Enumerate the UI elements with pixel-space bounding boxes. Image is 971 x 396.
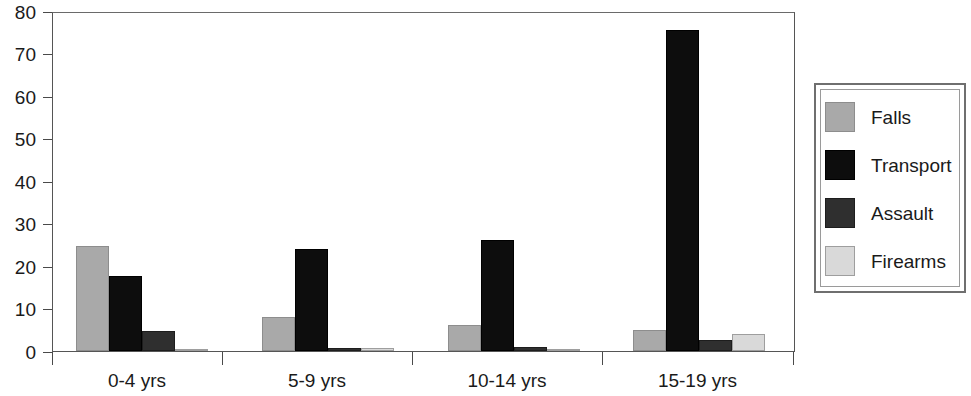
bars-layer (53, 13, 794, 351)
legend-swatch-firearms (825, 246, 855, 276)
y-tick-label-70: 70 (15, 45, 36, 64)
y-tick-label-80: 80 (15, 3, 36, 22)
legend-swatch-falls (825, 102, 855, 132)
y-tick-label-60: 60 (15, 88, 36, 107)
y-tick-label-0: 0 (25, 343, 36, 362)
y-tick-mark-30 (43, 224, 52, 225)
y-tick-label-50: 50 (15, 130, 36, 149)
bar-falls-15-19-yrs (633, 330, 666, 351)
y-tick-mark-10 (43, 309, 52, 310)
x-category-label-3: 15-19 yrs (602, 370, 793, 392)
x-axis-tick-4 (793, 352, 794, 365)
x-category-label-1: 5-9 yrs (222, 370, 412, 392)
y-tick-label-30: 30 (15, 215, 36, 234)
y-tick-label-40: 40 (15, 173, 36, 192)
y-tick-mark-80 (43, 12, 52, 13)
y-tick-mark-50 (43, 139, 52, 140)
y-tick-label-20: 20 (15, 258, 36, 277)
x-axis-tick-2 (412, 352, 413, 365)
y-tick-mark-40 (43, 182, 52, 183)
y-axis: 80 70 60 50 40 30 20 10 0 (0, 0, 52, 396)
bar-chart: 80 70 60 50 40 30 20 10 0 0-4 yrs 5-9 yr… (0, 0, 971, 396)
bar-transport-5-9-yrs (295, 249, 328, 351)
bar-assault-5-9-yrs (328, 348, 361, 351)
legend-label-assault: Assault (871, 204, 933, 223)
x-axis: 0-4 yrs 5-9 yrs 10-14 yrs 15-19 yrs (52, 352, 795, 396)
bar-transport-0-4-yrs (109, 276, 142, 351)
plot-area (52, 12, 795, 352)
bar-assault-0-4-yrs (142, 331, 175, 351)
legend-label-firearms: Firearms (871, 252, 946, 271)
legend-item-assault: Assault (825, 197, 933, 229)
bar-transport-15-19-yrs (666, 30, 699, 351)
bar-assault-15-19-yrs (699, 340, 732, 351)
y-tick-mark-60 (43, 97, 52, 98)
y-tick-mark-70 (43, 54, 52, 55)
x-category-label-2: 10-14 yrs (412, 370, 602, 392)
x-axis-tick-3 (602, 352, 603, 365)
bar-firearms-10-14-yrs (547, 349, 580, 351)
bar-firearms-0-4-yrs (175, 349, 208, 351)
y-tick-mark-20 (43, 267, 52, 268)
legend-swatch-assault (825, 198, 855, 228)
bar-firearms-15-19-yrs (732, 334, 765, 351)
bar-transport-10-14-yrs (481, 240, 514, 351)
legend-label-falls: Falls (871, 108, 911, 127)
bar-falls-10-14-yrs (448, 325, 481, 351)
bar-firearms-5-9-yrs (361, 348, 394, 351)
legend-item-transport: Transport (825, 149, 952, 181)
legend: Falls Transport Assault Firearms (814, 83, 966, 293)
bar-assault-10-14-yrs (514, 347, 547, 351)
x-category-label-0: 0-4 yrs (52, 370, 222, 392)
x-axis-tick-0 (52, 352, 53, 365)
legend-item-falls: Falls (825, 101, 911, 133)
bar-falls-5-9-yrs (262, 317, 295, 351)
y-tick-label-10: 10 (15, 300, 36, 319)
bar-falls-0-4-yrs (76, 246, 109, 351)
legend-item-firearms: Firearms (825, 245, 946, 277)
x-axis-tick-1 (222, 352, 223, 365)
legend-label-transport: Transport (871, 156, 952, 175)
legend-swatch-transport (825, 150, 855, 180)
y-tick-mark-0 (43, 352, 52, 353)
